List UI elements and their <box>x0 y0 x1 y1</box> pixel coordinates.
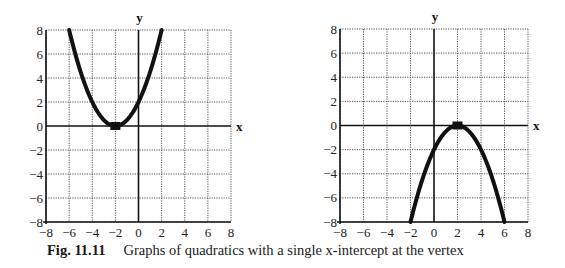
y-tick-label: 4 <box>37 71 44 86</box>
figure-charts: −8−6−4−202468−8−6−4−202468yx−8−6−4−20246… <box>0 0 565 268</box>
x-tick-label: 0 <box>135 225 142 240</box>
chart-2: −8−6−4−202468−8−6−4−202468yx <box>323 9 540 240</box>
x-tick-label: −4 <box>380 225 394 240</box>
y-tick-label: 0 <box>37 119 44 134</box>
y-tick-label: 6 <box>331 46 338 61</box>
y-tick-label: 2 <box>331 94 338 109</box>
y-axis-label: y <box>432 9 439 24</box>
x-tick-label: −6 <box>62 225 76 240</box>
x-axis-label: x <box>236 119 243 134</box>
y-tick-label: −6 <box>323 190 337 205</box>
y-tick-label: 6 <box>37 47 44 62</box>
y-tick-label: −2 <box>29 143 43 158</box>
x-tick-label: 2 <box>454 225 461 240</box>
y-tick-label: 8 <box>37 23 44 38</box>
y-tick-label: 0 <box>331 118 338 133</box>
x-tick-label: 8 <box>525 225 532 240</box>
x-tick-label: 8 <box>228 225 235 240</box>
x-tick-label: 0 <box>431 225 438 240</box>
vertex-point-marker <box>453 122 463 130</box>
x-tick-label: −4 <box>85 225 99 240</box>
y-tick-label: −6 <box>29 191 43 206</box>
figure-caption-text: Graphs of quadratics with a single x-int… <box>123 242 463 258</box>
x-tick-label: 4 <box>182 225 189 240</box>
y-tick-label: 2 <box>37 95 44 110</box>
x-tick-label: 6 <box>501 225 508 240</box>
y-tick-label: 8 <box>331 22 338 37</box>
chart-1: −8−6−4−202468−8−6−4−202468yx <box>29 10 243 240</box>
x-tick-label: 2 <box>158 225 165 240</box>
y-tick-label: −2 <box>323 142 337 157</box>
x-tick-label: −6 <box>357 225 371 240</box>
x-tick-label: 6 <box>205 225 212 240</box>
y-tick-label: −4 <box>29 167 43 182</box>
x-tick-label: −2 <box>404 225 418 240</box>
vertex-point-marker <box>110 122 120 130</box>
y-tick-label: 4 <box>331 70 338 85</box>
figure-caption: Fig. 11.11Graphs of quadratics with a si… <box>47 242 464 259</box>
y-tick-label: −8 <box>323 215 337 230</box>
y-tick-label: −8 <box>29 215 43 230</box>
y-axis-label: y <box>136 10 143 25</box>
x-tick-label: 4 <box>478 225 485 240</box>
y-tick-label: −4 <box>323 166 337 181</box>
x-axis-label: x <box>533 118 540 133</box>
figure-number: Fig. 11.11 <box>47 242 105 258</box>
x-tick-label: −2 <box>108 225 122 240</box>
